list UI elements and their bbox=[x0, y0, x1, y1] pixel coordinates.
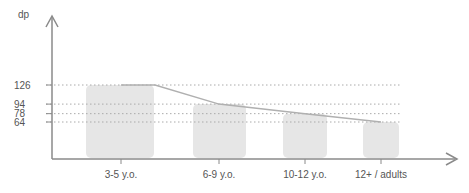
bar-3 bbox=[283, 114, 327, 158]
y-tick-label: 64 bbox=[14, 117, 26, 128]
bar-chart: 1269478643-5 y.o.6-9 y.o.10-12 y.o.12+ /… bbox=[0, 0, 469, 193]
y-tick-label: 126 bbox=[14, 80, 31, 91]
x-tick-label: 12+ / adults bbox=[355, 169, 407, 180]
bar-2 bbox=[193, 104, 246, 158]
x-tick-label: 10-12 y.o. bbox=[283, 169, 327, 180]
bar-1 bbox=[86, 85, 154, 158]
y-axis-label: dp bbox=[18, 9, 30, 20]
x-tick-label: 3-5 y.o. bbox=[105, 169, 138, 180]
bar-4 bbox=[363, 122, 399, 158]
trend-line bbox=[121, 85, 381, 122]
x-tick-label: 6-9 y.o. bbox=[203, 169, 236, 180]
